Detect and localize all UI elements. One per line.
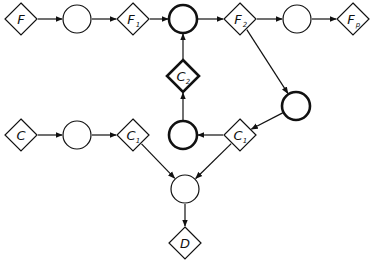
diamond-node-F: F	[5, 3, 37, 35]
node-subscript: 2	[243, 21, 248, 29]
edge-arrow-C1a-to-o7	[142, 144, 175, 178]
node-label: C	[16, 128, 26, 143]
circle-shape	[63, 121, 91, 149]
circle-node-o3	[283, 5, 311, 33]
node-label: D	[180, 236, 190, 251]
diamond-node-Fp: Fp	[337, 3, 369, 35]
diamond-node-C: C	[5, 119, 37, 151]
circle-node-o2	[169, 5, 197, 33]
diamond-node-D: D	[169, 227, 201, 259]
circle-shape	[171, 175, 199, 203]
circle-node-o1	[63, 5, 91, 33]
node-subscript: 1	[136, 21, 140, 29]
node-subscript: p	[355, 21, 361, 29]
nodes-layer: FF1F2FpC2CC1C1D	[5, 3, 369, 259]
node-subscript: 2	[186, 78, 191, 86]
workflow-diagram: FF1F2FpC2CC1C1D	[0, 0, 371, 272]
node-label: F	[127, 12, 135, 27]
circle-node-o4	[282, 92, 310, 120]
circle-shape	[169, 5, 197, 33]
node-label: F	[17, 12, 25, 27]
edge-arrow-C1b-to-o7	[196, 144, 232, 179]
circle-shape	[63, 5, 91, 33]
node-label: F	[234, 12, 242, 27]
diamond-node-C2: C2	[167, 60, 199, 92]
circle-shape	[169, 121, 197, 149]
circle-node-o5	[63, 121, 91, 149]
node-subscript: 1	[136, 137, 140, 145]
edge-arrow-F2-to-o4	[247, 30, 288, 94]
circle-shape	[282, 92, 310, 120]
diamond-node-F2: F2	[224, 3, 256, 35]
circle-node-o6	[169, 121, 197, 149]
node-subscript: 1	[243, 137, 247, 145]
circle-shape	[283, 5, 311, 33]
node-label: F	[347, 12, 355, 27]
circle-node-o7	[171, 175, 199, 203]
diamond-node-F1: F1	[117, 3, 149, 35]
edge-arrow-o4-to-C1b	[251, 113, 282, 129]
